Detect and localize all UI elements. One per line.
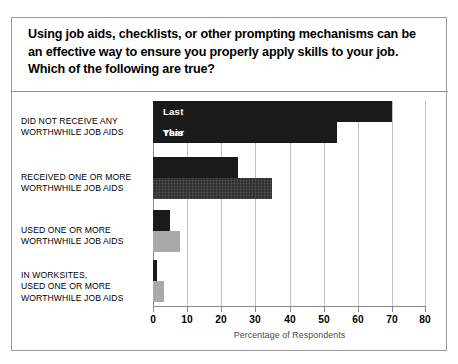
bar-this-year-2 xyxy=(153,178,272,199)
category-label-4: IN WORKSITES, USED ONE OR MORE WORTHWHIL… xyxy=(21,270,143,304)
gridline-80 xyxy=(425,101,426,306)
tick-0 xyxy=(153,307,154,312)
bar-last-year-1 xyxy=(153,101,392,122)
category-label-3: USED ONE OR MORE WORTHWHILE JOB AIDS xyxy=(21,225,143,248)
tick-label-30: 30 xyxy=(240,314,270,325)
bar-this-year-3 xyxy=(153,231,180,252)
tick-label-70: 70 xyxy=(377,314,407,325)
tick-label-0: 0 xyxy=(138,314,168,325)
chart-title: Using job aids, checklists, or other pro… xyxy=(28,26,430,79)
chart-figure: Using job aids, checklists, or other pro… xyxy=(11,17,447,351)
tick-60 xyxy=(358,307,359,312)
tick-label-40: 40 xyxy=(275,314,305,325)
plot-wrapper: DID NOT RECEIVE ANY WORTHWHILE JOB AIDS … xyxy=(12,92,448,352)
gridline-60 xyxy=(358,101,359,306)
tick-label-60: 60 xyxy=(343,314,373,325)
tick-20 xyxy=(221,307,222,312)
tick-80 xyxy=(425,307,426,312)
tick-label-50: 50 xyxy=(309,314,339,325)
category-label-2: RECEIVED ONE OR MORE WORTHWHILE JOB AIDS xyxy=(21,172,143,195)
gridline-70 xyxy=(392,101,393,306)
category-label-1: DID NOT RECEIVE ANY WORTHWHILE JOB AIDS xyxy=(21,116,143,139)
title-block: Using job aids, checklists, or other pro… xyxy=(12,18,446,90)
tick-70 xyxy=(392,307,393,312)
tick-label-10: 10 xyxy=(172,314,202,325)
bar-last-year-4 xyxy=(153,260,157,281)
tick-50 xyxy=(324,307,325,312)
tick-10 xyxy=(187,307,188,312)
bar-this-year-4 xyxy=(153,281,164,302)
bar-last-year-3 xyxy=(153,210,170,231)
tick-label-80: 80 xyxy=(410,314,440,325)
x-axis-title: Percentage of Respondents xyxy=(153,330,426,340)
tick-label-20: 20 xyxy=(206,314,236,325)
tick-40 xyxy=(290,307,291,312)
bar-last-year-2 xyxy=(153,157,238,178)
tick-30 xyxy=(255,307,256,312)
